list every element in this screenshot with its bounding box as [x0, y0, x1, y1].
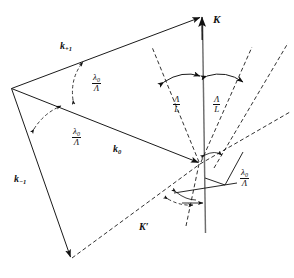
label-K-prime: K′	[139, 222, 148, 232]
arc-lambda-lower	[34, 106, 61, 129]
lower-dashed-below-origin	[186, 164, 199, 226]
label-lambda-over-Lambda-upper: λ0 Λ	[92, 73, 101, 94]
K-axis-line	[203, 22, 206, 233]
arc-lambda-upper	[72, 62, 83, 100]
label-k-plus1: k+1	[60, 41, 72, 53]
wave-vector-diagram	[0, 0, 294, 278]
arc-Lambda-L-left	[164, 74, 200, 82]
label-Lambda-over-L-left: Λ L	[173, 95, 180, 115]
right-leader-line-b	[205, 178, 225, 185]
k-zero-vector	[12, 89, 199, 163]
label-k-zero: k0	[113, 144, 121, 156]
figure-canvas: k+1 k0 k−1 K K′ λ0 Λ λ0 Λ λ0 Λ Λ L	[0, 0, 294, 278]
arc-lambda-lower-right	[168, 199, 193, 205]
arc-Lambda-L-right	[207, 74, 243, 82]
lower-right-dashed	[200, 112, 290, 164]
label-Lambda-over-L-right: Λ L	[213, 95, 220, 115]
k-minus1-vector	[12, 89, 71, 258]
label-lambda-over-Lambda-right: λ0 Λ	[240, 168, 249, 189]
grating-order-dashed-right-inner	[201, 47, 252, 162]
label-K: K	[213, 14, 220, 25]
K-prime-dashed	[72, 164, 200, 258]
label-lambda-over-Lambda-lower: λ0 Λ	[72, 127, 81, 148]
label-k-minus1: k−1	[14, 174, 26, 186]
